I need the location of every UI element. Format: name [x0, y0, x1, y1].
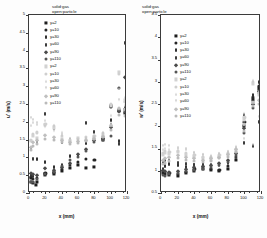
data-point-left-circle [93, 141, 96, 144]
x-tick-mark [29, 191, 30, 194]
x-minor-tick-mark [215, 191, 216, 193]
x-tick-label: 0 [153, 196, 167, 200]
x-minor-tick-mark [207, 191, 208, 193]
y-tick-mark [26, 175, 29, 176]
y-minor-tick-mark [160, 115, 162, 116]
data-point-triangle-down [164, 143, 166, 146]
legend-label: y=60 [180, 99, 189, 103]
data-point-left-circle [168, 173, 171, 176]
legend-label: y=30 [50, 35, 59, 39]
data-point-triangle-down [202, 154, 204, 157]
data-point-triangle-down [243, 142, 245, 145]
legend-item: y=2 [171, 32, 191, 39]
y-minor-tick-mark [28, 77, 30, 78]
x-tick-label: 60 [70, 196, 84, 200]
x-tick-label: 80 [220, 196, 234, 200]
data-point-triangle-up [110, 119, 112, 122]
data-point-left-circle [226, 155, 229, 158]
data-point-left-circle [193, 168, 196, 171]
legend-item: y=110 [41, 55, 61, 62]
y-minor-tick-mark [160, 137, 162, 138]
y-tick-label: 1 [8, 154, 25, 158]
legend-marker-square [41, 19, 50, 26]
legend-marker-circle [171, 83, 180, 90]
legend-item: y=60 [41, 85, 61, 92]
x-minor-tick-mark [90, 191, 91, 193]
data-point-left-circle [60, 141, 63, 144]
y-tick-label: 3 [140, 79, 157, 83]
data-point-circle [85, 158, 88, 161]
legend-label: y=90 [180, 63, 189, 67]
y-tick-label: 1.5 [140, 145, 157, 149]
data-point-left-circle [251, 105, 254, 108]
y-tick-label: 3.5 [140, 56, 157, 60]
y-tick-label: 0.5 [8, 172, 25, 176]
y-tick-label: 5 [8, 12, 25, 16]
legend-item: y=30 [171, 90, 191, 97]
x-minor-tick-mark [182, 191, 183, 193]
chart-panel-right: solid:gas open:particle y=2y=10y=30y=60y… [134, 0, 267, 238]
data-point-left-circle [32, 181, 35, 184]
x-minor-tick-mark [123, 191, 124, 193]
y-minor-tick-mark [160, 93, 162, 94]
legend-item: y=110 [41, 99, 61, 106]
y-minor-tick-mark [28, 24, 30, 25]
data-point-diamond [257, 98, 259, 102]
data-point-left-circle [218, 157, 221, 160]
x-tick-mark [94, 191, 95, 194]
legend-marker-left-circle [171, 112, 180, 119]
legend-item: y=60 [171, 98, 191, 105]
y-minor-tick-mark [28, 113, 30, 114]
data-point-left-circle [185, 169, 188, 172]
y-minor-tick-mark [160, 48, 162, 49]
data-point-triangle-up [168, 163, 170, 166]
data-point-triangle-up [30, 124, 32, 127]
data-point-left-circle [44, 137, 47, 140]
x-tick-label: 120 [119, 196, 133, 200]
legend-item: y=30 [41, 34, 61, 41]
y-minor-tick-mark [160, 26, 162, 27]
y-minor-tick-mark [160, 160, 162, 161]
x-minor-tick-mark [58, 191, 59, 193]
data-point-square [93, 166, 96, 169]
legend-item: y=110 [171, 112, 191, 119]
x-tick-label: 80 [86, 196, 100, 200]
legend-label: y=110 [180, 114, 191, 118]
data-point-left-circle [218, 164, 221, 167]
y-tick-mark [158, 149, 161, 150]
data-point-left-circle [226, 160, 229, 163]
legend-label: y=10 [180, 85, 189, 89]
x-tick-label: 0 [21, 196, 35, 200]
data-point-left-circle [44, 173, 47, 176]
x-axis-title-right: x (mm) [134, 214, 267, 219]
y-minor-tick-mark [160, 182, 162, 183]
legend-marker-left-circle [171, 68, 180, 75]
data-point-left-circle [176, 157, 179, 160]
data-point-left-circle [85, 149, 88, 152]
legend-label: y=110 [50, 57, 61, 61]
legend-item: y=110 [171, 68, 191, 75]
x-tick-label: 20 [170, 196, 184, 200]
legend-label: y=60 [50, 42, 59, 46]
legend-marker-diamond [171, 105, 180, 112]
x-axis-title-left: x (mm) [0, 214, 133, 219]
data-point-left-circle [68, 142, 71, 145]
legend-item: y=2 [41, 63, 61, 70]
data-point-triangle-down [53, 129, 55, 132]
data-point-triangle-down [185, 163, 187, 166]
y-minor-tick-mark [28, 60, 30, 61]
legend-item: y=30 [41, 77, 61, 84]
data-point-left-circle [29, 149, 32, 152]
data-point-left-circle [32, 145, 35, 148]
x-minor-tick-mark [174, 191, 175, 193]
legend-left: y=2y=10y=30y=60y=90y=110y=2y=10y=30y=60y… [41, 19, 61, 107]
x-tick-label: 40 [186, 196, 200, 200]
chart-panel-left: solid:gas open:particle y=2y=10y=30y=60y… [0, 0, 133, 238]
legend-item: y=30 [171, 47, 191, 54]
data-point-triangle-up [252, 78, 254, 81]
data-point-left-circle [52, 170, 55, 173]
legend-marker-diamond [41, 92, 50, 99]
data-point-left-circle [193, 159, 196, 162]
x-tick-mark [111, 191, 112, 194]
legend-label: y=90 [180, 107, 189, 111]
